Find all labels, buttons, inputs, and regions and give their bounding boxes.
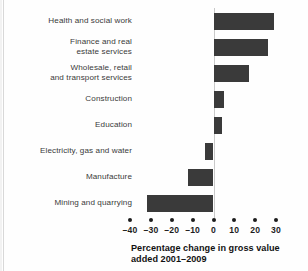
axis-tick-dot [232,218,236,222]
axis-tick-dot [149,218,153,222]
axis-tick-dot [128,218,132,222]
value-axis: –40–30–20–100102030 [0,216,308,242]
bar [188,169,213,186]
caption-line-1: Percentage change in gross value [131,243,303,254]
axis-tick-dot [212,218,216,222]
chart-caption: Percentage change in gross value added 2… [131,243,303,265]
axis-tick-dot [253,218,257,222]
bar-chart-figure: Health and social workFinance and reales… [0,0,308,271]
axis-tick-label: 30 [261,225,291,235]
bar [205,143,213,160]
axis-tick-dot [170,218,174,222]
axis-tick-dot [191,218,195,222]
caption-line-2: added 2001–2009 [131,254,303,265]
bar [214,91,224,108]
bar [147,195,214,212]
bar [214,39,268,56]
plot-area [0,8,308,216]
bar [214,65,249,82]
bar [214,13,274,30]
bar [214,117,222,134]
axis-tick-dot [274,218,278,222]
